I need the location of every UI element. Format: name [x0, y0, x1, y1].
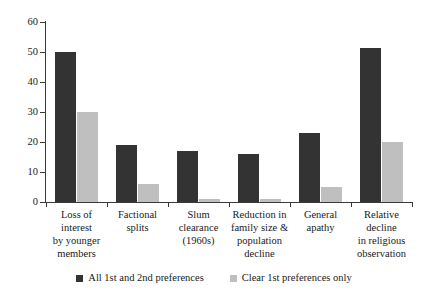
bar	[382, 142, 403, 202]
bar	[321, 187, 342, 202]
chart-legend: All 1st and 2nd preferencesClear 1st pre…	[0, 272, 428, 284]
y-axis-tick-label: 10	[4, 167, 38, 178]
bar	[116, 145, 137, 202]
x-axis-tick	[290, 202, 291, 207]
x-axis-tick	[107, 202, 108, 207]
bar	[55, 52, 76, 202]
category-label: Relative declinein religiousobservation	[351, 208, 412, 260]
bar-group	[229, 22, 290, 202]
bar-group	[46, 22, 107, 202]
plot-area	[46, 22, 412, 202]
category-labels: Loss of interestby youngermembersFaction…	[46, 208, 412, 270]
bar-group	[290, 22, 351, 202]
category-label-line: family size &	[229, 221, 290, 234]
y-axis-tick-label: 0	[4, 197, 38, 208]
legend-item: Clear 1st preferences only	[230, 272, 352, 284]
bar	[360, 48, 381, 203]
category-label: Loss of interestby youngermembers	[46, 208, 107, 260]
y-axis-tick-label: 30	[4, 107, 38, 118]
x-axis-tick	[168, 202, 169, 207]
category-label: Reduction infamily size &populationdecli…	[229, 208, 290, 260]
x-axis-tick	[229, 202, 230, 207]
legend-label: Clear 1st preferences only	[242, 272, 352, 284]
legend-swatch-icon	[76, 275, 83, 282]
category-label-line: Loss of interest	[46, 208, 107, 234]
bar	[238, 154, 259, 202]
category-label-line: Factional splits	[107, 208, 168, 234]
legend-label: All 1st and 2nd preferences	[88, 272, 203, 284]
legend-swatch-icon	[230, 275, 237, 282]
bar-group	[168, 22, 229, 202]
x-axis-end-tick	[412, 202, 413, 207]
category-label-line: by younger	[46, 234, 107, 247]
category-label-line: observation	[351, 247, 412, 260]
bar	[77, 112, 98, 202]
category-label-line: Reduction in	[229, 208, 290, 221]
category-label: General apathy	[290, 208, 351, 234]
category-label-line: in religious	[351, 234, 412, 247]
y-axis-tick-label: 60	[4, 17, 38, 28]
x-axis-tick	[351, 202, 352, 207]
bar-group	[107, 22, 168, 202]
bar-group	[351, 22, 412, 202]
bar	[177, 151, 198, 202]
category-label-line: Relative decline	[351, 208, 412, 234]
category-label-line: members	[46, 247, 107, 260]
category-label-line: decline	[229, 247, 290, 260]
bar	[260, 199, 281, 202]
category-label-line: Slum clearance	[168, 208, 229, 234]
bar	[199, 199, 220, 202]
bar-chart: 0102030405060 Loss of interestby younger…	[0, 0, 428, 297]
category-label-line: (1960s)	[168, 234, 229, 247]
legend-item: All 1st and 2nd preferences	[76, 272, 203, 284]
x-axis-end-tick	[46, 202, 47, 207]
y-axis-tick-label: 40	[4, 77, 38, 88]
category-label-line: General apathy	[290, 208, 351, 234]
category-label: Slum clearance(1960s)	[168, 208, 229, 247]
bar	[299, 133, 320, 202]
y-axis-tick-label: 50	[4, 47, 38, 58]
category-label-line: population	[229, 234, 290, 247]
bar	[138, 184, 159, 202]
category-label: Factional splits	[107, 208, 168, 234]
y-axis-tick-label: 20	[4, 137, 38, 148]
